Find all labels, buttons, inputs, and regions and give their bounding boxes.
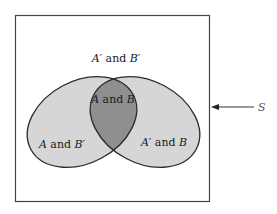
venn-diagram: A′ and B′ A and B A and B′ A′ and B S [0,0,277,214]
label-a-and-b: A and B [90,93,135,106]
label-outside: A′ and B′ [91,52,141,65]
label-b-only: A′ and B [140,136,187,149]
label-a-only: A and B′ [38,138,86,151]
universe-label: S [258,101,266,114]
arrow-to-universe [211,104,254,110]
